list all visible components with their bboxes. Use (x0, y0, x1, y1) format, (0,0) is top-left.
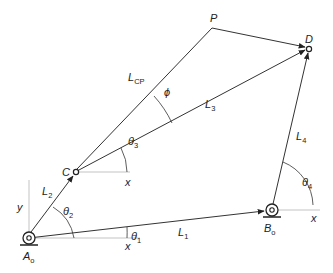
link-l3 (78, 50, 305, 171)
joint-d (306, 46, 311, 51)
arc-theta3 (121, 148, 127, 172)
joint-c (73, 169, 78, 174)
label-phi: ϕ (164, 86, 170, 98)
label-b0: Bo (264, 222, 276, 237)
label-y-axis: y (16, 201, 24, 213)
label-x-axis-a0: x (124, 240, 131, 252)
label-theta1: θ1 (131, 230, 141, 245)
label-l1: L1 (178, 226, 188, 241)
ground-pivot-a0 (20, 232, 38, 245)
label-theta4: θ4 (302, 176, 312, 191)
label-l2: L2 (42, 185, 52, 200)
link-pd (212, 28, 305, 47)
label-p: P (210, 12, 218, 24)
link-lcp (77, 28, 212, 169)
links (31, 28, 308, 238)
label-l4: L4 (296, 130, 306, 145)
label-theta2: θ2 (63, 205, 73, 220)
arc-phi (154, 96, 172, 123)
label-l3: L3 (205, 98, 215, 113)
label-theta3: θ3 (128, 135, 138, 150)
label-d: D (305, 33, 313, 45)
label-a0: Ao (22, 250, 35, 265)
link-l2 (31, 176, 73, 232)
label-x-axis-c: x (124, 176, 131, 188)
label-lcp: LCP (128, 71, 145, 86)
linkage-diagram: Ao Bo C D P L1 L2 L3 L4 LCP θ1 θ2 θ3 θ4 … (0, 0, 333, 273)
ground-pivot-b0 (263, 204, 281, 217)
label-x-axis-b0: x (310, 212, 317, 224)
label-c: C (62, 166, 70, 178)
